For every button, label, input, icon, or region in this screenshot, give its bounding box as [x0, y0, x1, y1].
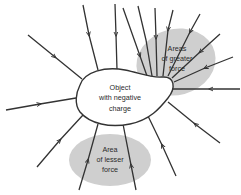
object-label-line1: Object — [110, 83, 131, 92]
lesser-area-label-line2: of lesser — [96, 155, 124, 164]
object-label-line2: with negative — [98, 93, 141, 102]
electric-field-diagram: Object with negative charge Areas of gre… — [0, 0, 241, 195]
lesser-area-label-line3: force — [102, 165, 118, 174]
greater-area-label-line2: of greater — [162, 54, 193, 63]
object-label-line3: charge — [109, 104, 131, 113]
lesser-area-label-line1: Area — [102, 145, 117, 154]
greater-area-label-line3: force — [169, 64, 185, 73]
greater-area-label-line1: Areas — [168, 44, 187, 53]
